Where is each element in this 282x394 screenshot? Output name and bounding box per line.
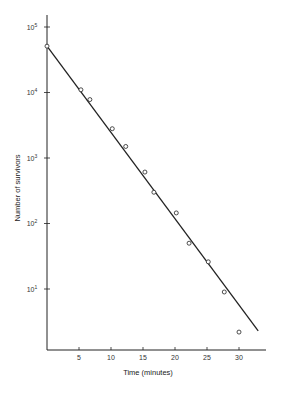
data-point: [222, 290, 226, 294]
survival-chart: 105104103102101 51015202530 Time (minute…: [0, 0, 282, 394]
data-point: [174, 211, 178, 215]
data-point: [110, 127, 114, 131]
data-point: [206, 260, 210, 264]
x-tick-label: 25: [203, 354, 211, 361]
regression-line: [47, 46, 258, 331]
y-tick-label: 102: [27, 218, 38, 227]
x-tick-label: 20: [171, 354, 179, 361]
x-tick-label: 5: [77, 354, 81, 361]
fit-line: [47, 46, 258, 331]
data-point: [187, 241, 191, 245]
x-tick-label: 10: [107, 354, 115, 361]
data-point: [79, 88, 83, 92]
data-point: [124, 144, 128, 148]
data-points: [45, 44, 241, 334]
data-point: [45, 44, 49, 48]
x-axis-label: Time (minutes): [123, 368, 173, 377]
x-tick-label: 30: [235, 354, 243, 361]
y-tick-label: 101: [27, 284, 38, 293]
data-point: [237, 330, 241, 334]
data-point: [88, 98, 92, 102]
y-tick-label: 104: [27, 87, 38, 96]
axes: [47, 15, 266, 350]
y-tick-label: 103: [27, 153, 38, 162]
y-tick-label: 105: [27, 22, 38, 31]
y-axis-label: Number of survivors: [13, 154, 22, 221]
data-point: [152, 190, 156, 194]
x-ticks: 51015202530: [77, 347, 243, 361]
data-point: [143, 170, 147, 174]
x-tick-label: 15: [139, 354, 147, 361]
